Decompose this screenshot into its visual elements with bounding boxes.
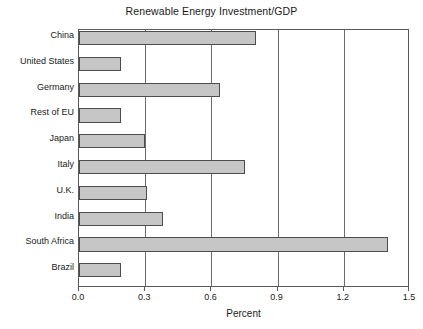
y-axis-label: Rest of EU xyxy=(0,107,74,117)
bar xyxy=(79,186,147,200)
x-axis-tick-label: 1.5 xyxy=(403,292,416,302)
bar-slot xyxy=(79,134,408,148)
y-axis-label: U.K. xyxy=(0,185,74,195)
bar-slot xyxy=(79,57,408,71)
x-axis-tick xyxy=(210,287,211,291)
chart-figure: Renewable Energy Investment/GDP ChinaUni… xyxy=(0,0,423,329)
bar xyxy=(79,212,163,226)
y-axis-label: Germany xyxy=(0,82,74,92)
bar-slot xyxy=(79,108,408,122)
x-axis-tick-label: 1.2 xyxy=(337,292,350,302)
x-axis-tick xyxy=(144,287,145,291)
bar xyxy=(79,160,245,174)
plot-area xyxy=(78,29,409,287)
chart-title: Renewable Energy Investment/GDP xyxy=(0,5,423,17)
y-axis-label: United States xyxy=(0,56,74,66)
bar xyxy=(79,263,121,277)
x-axis-tick xyxy=(277,287,278,291)
bar xyxy=(79,108,121,122)
bar xyxy=(79,83,220,97)
bar xyxy=(79,31,256,45)
bar xyxy=(79,57,121,71)
x-axis-tick-labels: 0.00.30.60.91.21.5 xyxy=(78,292,409,306)
y-axis-label: Brazil xyxy=(0,262,74,272)
y-axis-label: Japan xyxy=(0,133,74,143)
y-axis-label: South Africa xyxy=(0,236,74,246)
bar xyxy=(79,237,388,251)
x-axis-tick-label: 0.0 xyxy=(72,292,85,302)
x-axis-tick xyxy=(343,287,344,291)
y-axis-label: Italy xyxy=(0,159,74,169)
x-axis-tick-label: 0.9 xyxy=(270,292,283,302)
bar-slot xyxy=(79,31,408,45)
bar-slot xyxy=(79,263,408,277)
x-axis-tick xyxy=(408,287,409,291)
x-axis-title: Percent xyxy=(78,308,409,319)
bars-layer xyxy=(79,30,408,286)
x-axis-tick-label: 0.6 xyxy=(204,292,217,302)
x-axis-tick xyxy=(78,287,79,291)
y-axis-category-labels: ChinaUnited StatesGermanyRest of EUJapan… xyxy=(0,29,74,287)
bar-slot xyxy=(79,83,408,97)
y-axis-label: India xyxy=(0,211,74,221)
bar-slot xyxy=(79,237,408,251)
bar xyxy=(79,134,145,148)
bar-slot xyxy=(79,186,408,200)
bar-slot xyxy=(79,212,408,226)
y-axis-label: China xyxy=(0,30,74,40)
bar-slot xyxy=(79,160,408,174)
x-axis-tick-label: 0.3 xyxy=(138,292,151,302)
